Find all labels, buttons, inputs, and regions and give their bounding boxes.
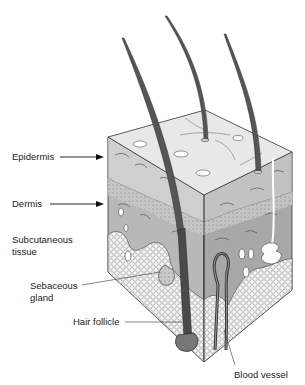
sweat-gland-coil bbox=[261, 243, 281, 264]
hair-opening-3 bbox=[254, 170, 262, 173]
label-dermis: Dermis bbox=[12, 198, 42, 210]
epidermis-arrowhead bbox=[96, 154, 104, 160]
label-blood-vessel: Blood vessel bbox=[234, 369, 288, 381]
hair-bulb bbox=[175, 333, 198, 351]
label-subcutaneous-tissue: Subcutaneous tissue bbox=[12, 234, 92, 258]
skin-cross-section-diagram bbox=[0, 0, 305, 385]
label-epidermis: Epidermis bbox=[12, 151, 54, 163]
label-sebaceous-gland: Sebaceous gland bbox=[30, 280, 85, 304]
dermis-arrowhead bbox=[96, 201, 104, 207]
label-hair-follicle: Hair follicle bbox=[73, 316, 119, 328]
hair-opening-2 bbox=[201, 138, 209, 141]
